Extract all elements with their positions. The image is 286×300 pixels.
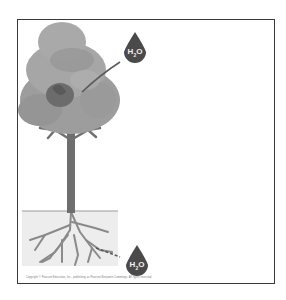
- top-droplet-label: H2O: [122, 47, 148, 58]
- copyright-caption: Copyright © Pearson Education, Inc., pub…: [26, 276, 152, 279]
- trunk: [67, 130, 75, 213]
- foliage: [18, 22, 120, 134]
- tree-illustration: [0, 0, 286, 300]
- bottom-droplet-label: H2O: [124, 260, 150, 271]
